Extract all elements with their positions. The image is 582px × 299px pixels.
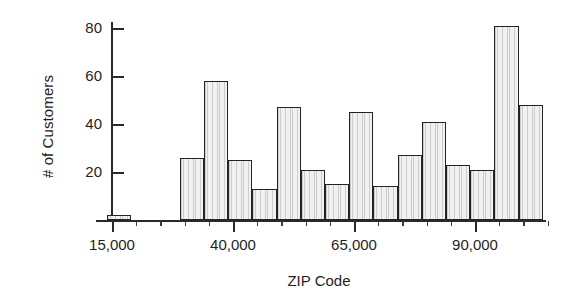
- x-tick-minor: [306, 221, 307, 226]
- histogram-bar: [301, 170, 325, 220]
- histogram-bar: [470, 170, 494, 220]
- x-tick-15000: [112, 221, 114, 232]
- x-tick-minor: [523, 221, 524, 226]
- x-tick-minor: [185, 221, 186, 226]
- x-tick-label: 40,000: [183, 236, 283, 253]
- x-tick-minor: [257, 221, 258, 226]
- histogram-chart: # of Customers 20406080 15,00040,00065,0…: [0, 0, 582, 299]
- x-tick-minor: [136, 221, 137, 226]
- y-tick-label: 60: [62, 67, 102, 84]
- x-tick-minor: [451, 221, 452, 226]
- histogram-bar: [325, 184, 349, 220]
- histogram-bar: [252, 189, 276, 220]
- x-tick-90000: [475, 221, 477, 232]
- y-tick-label: 20: [62, 163, 102, 180]
- x-axis-title: ZIP Code: [0, 272, 582, 289]
- x-tick-minor: [427, 221, 428, 226]
- histogram-bar: [519, 105, 543, 220]
- histogram-bar: [398, 155, 422, 220]
- x-tick-minor: [499, 221, 500, 226]
- y-tick-label: 40: [62, 115, 102, 132]
- histogram-bar: [446, 165, 470, 220]
- histogram-bar: [204, 81, 228, 220]
- histogram-bar: [373, 186, 397, 220]
- y-axis-title: # of Customers: [39, 42, 56, 212]
- histogram-bar: [228, 160, 252, 220]
- x-tick-minor: [330, 221, 331, 226]
- x-axis-title-text: ZIP Code: [287, 272, 350, 289]
- histogram-bar: [349, 112, 373, 220]
- histogram-bar: [277, 107, 301, 220]
- x-tick-minor: [281, 221, 282, 226]
- x-tick-65000: [354, 221, 356, 232]
- x-tick-minor: [160, 221, 161, 226]
- x-tick-label: 90,000: [425, 236, 525, 253]
- x-tick-40000: [233, 221, 235, 232]
- histogram-bar: [107, 215, 131, 220]
- histogram-bar: [422, 122, 446, 220]
- histogram-bar: [494, 26, 518, 220]
- y-tick-label: 80: [62, 19, 102, 36]
- x-tick-label: 65,000: [304, 236, 404, 253]
- x-tick-minor: [209, 221, 210, 226]
- x-tick-minor: [378, 221, 379, 226]
- x-tick-minor: [548, 221, 549, 226]
- x-tick-minor: [402, 221, 403, 226]
- histogram-bar: [180, 158, 204, 220]
- x-tick-label: 15,000: [62, 236, 162, 253]
